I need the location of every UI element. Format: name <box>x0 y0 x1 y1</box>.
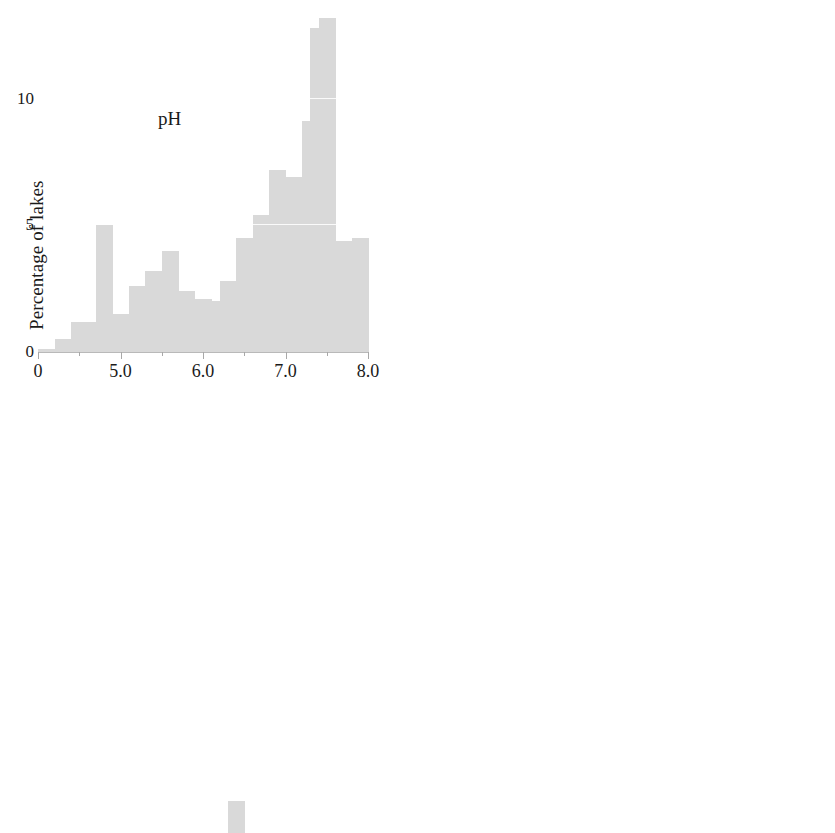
panel-als-seepage-lakes-anc: ALS seepage lakes -1000100200300400500 A… <box>420 675 835 833</box>
x-axis-tick-label: 7.0 <box>274 361 297 382</box>
y-axis-tick-label: 10 <box>12 90 34 107</box>
histogram-bar <box>360 238 369 352</box>
y-axis-tick-label: 5 <box>12 216 34 233</box>
x-axis-minor-tick <box>244 352 245 356</box>
x-axis-tick <box>368 352 369 359</box>
panel-els-all-lakes-anc: Anc ELS, all lakes 0100200300400 051015 <box>420 0 835 390</box>
x-axis-tick <box>121 352 122 359</box>
panel-als-seepage-lakes-ph: ALS seepage lakes 05.06.07.08.0 pH 02 <box>0 675 420 833</box>
x-axis-tick <box>203 352 204 359</box>
x-axis-tick-label: 5.0 <box>109 361 132 382</box>
y-axis-tick-label: 0 <box>12 343 34 360</box>
x-axis-tick-label: 6.0 <box>192 361 215 382</box>
x-axis-tick <box>286 352 287 359</box>
panel-als-drainage-lakes-ph: Percentage of lakes ALS drainage lakes 0… <box>0 390 420 675</box>
x-axis-tick <box>38 352 39 359</box>
plot-area <box>38 10 368 352</box>
panel-els-all-lakes-ph: Percentage of lakes pH ELS, all lakes 05… <box>0 0 420 390</box>
x-axis-tick-label: 0 <box>34 361 43 382</box>
panel-als-drainage-lakes-anc: ALS drainage lakes -1000100200300400500 … <box>420 390 835 675</box>
x-axis-minor-tick <box>79 352 80 356</box>
x-axis-tick-label: 8.0 <box>357 361 380 382</box>
x-axis: 05.06.07.08.0 <box>38 352 368 353</box>
lake-chemistry-figure: Percentage of lakes pH ELS, all lakes 05… <box>0 0 835 833</box>
x-axis-minor-tick <box>162 352 163 356</box>
histogram-bars <box>38 10 368 352</box>
x-axis-minor-tick <box>327 352 328 356</box>
